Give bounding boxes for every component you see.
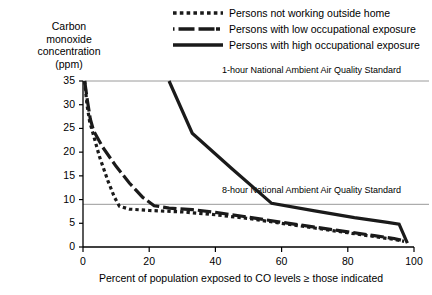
x-tick-label: 40 bbox=[195, 255, 235, 267]
x-tick-label: 0 bbox=[63, 255, 103, 267]
axis-ticks-group bbox=[79, 81, 414, 252]
chart-figure: Carbon monoxide concentration (ppm) Pers… bbox=[0, 0, 432, 295]
y-tick-label: 25 bbox=[45, 121, 75, 133]
y-tick-label: 15 bbox=[45, 169, 75, 181]
x-axis-title: Percent of population exposed to CO leve… bbox=[56, 272, 426, 284]
x-tick-label: 100 bbox=[394, 255, 432, 267]
x-tick-label: 60 bbox=[262, 255, 302, 267]
reference-lines-group bbox=[83, 81, 429, 204]
data-series-group bbox=[85, 81, 408, 243]
x-tick-label: 20 bbox=[129, 255, 169, 267]
axis-lines-group bbox=[83, 81, 414, 247]
y-tick-label: 5 bbox=[45, 216, 75, 228]
x-tick-label: 80 bbox=[328, 255, 368, 267]
y-tick-label: 10 bbox=[45, 193, 75, 205]
y-tick-label: 30 bbox=[45, 98, 75, 110]
y-tick-label: 0 bbox=[45, 240, 75, 252]
series-line-2 bbox=[169, 81, 407, 243]
y-tick-label: 20 bbox=[45, 145, 75, 157]
y-tick-label: 35 bbox=[45, 74, 75, 86]
